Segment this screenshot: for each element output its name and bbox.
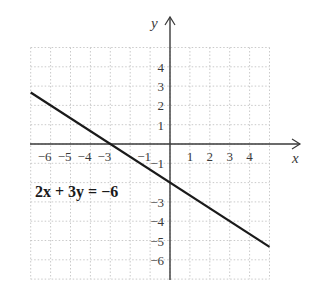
x-tick-label: 2 <box>207 149 214 164</box>
x-tick-label: −5 <box>58 149 72 164</box>
y-tick-label: 1 <box>158 118 165 133</box>
x-tick-label: 3 <box>226 149 233 164</box>
y-tick-label: 2 <box>158 98 165 113</box>
y-tick-label: −5 <box>150 234 164 249</box>
x-tick-label: −3 <box>97 149 111 164</box>
x-tick-label: −4 <box>78 149 92 164</box>
y-tick-label: 4 <box>158 60 165 75</box>
y-tick-label: −6 <box>150 253 164 268</box>
x-axis-label: x <box>291 150 299 166</box>
y-tick-label: 3 <box>158 79 165 94</box>
graph-canvas: x y −6−5−4−3−112344321−1−3−4−5−6 2x + 3y… <box>0 0 316 284</box>
x-tick-label: 1 <box>187 149 194 164</box>
y-tick-label: −3 <box>150 195 164 210</box>
y-tick-label: −4 <box>150 214 164 229</box>
equation-label: 2x + 3y = −6 <box>35 183 118 201</box>
tick-labels: −6−5−4−3−112344321−1−3−4−5−6 <box>38 60 254 268</box>
y-tick-label: −1 <box>150 156 164 171</box>
y-axis-label: y <box>149 15 158 31</box>
x-tick-label: −6 <box>38 149 52 164</box>
x-tick-label: 4 <box>246 149 253 164</box>
